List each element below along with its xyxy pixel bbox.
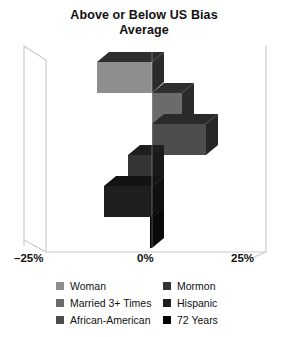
legend-label-african-american: African-American <box>70 314 151 326</box>
legend-item-woman: Woman <box>56 278 151 293</box>
legend-swatch-african-american <box>56 316 64 324</box>
legend-item-african-american: African-American <box>56 312 151 327</box>
legend-label-married-3-plus-times: Married 3+ Times <box>70 297 151 309</box>
legend-swatch-mormon <box>163 282 171 290</box>
legend-swatch-married-3-plus-times <box>56 299 64 307</box>
legend-item-married-3-plus-times: Married 3+ Times <box>56 295 151 310</box>
legend-item-hispanic: Hispanic <box>163 295 218 310</box>
x-tick-positive: 25% <box>231 252 254 264</box>
bar-chart-svg <box>0 34 288 259</box>
chart-title-line-1: Above or Below US Bias <box>0 8 288 23</box>
legend-swatch-72-years <box>163 316 171 324</box>
plot-area <box>0 34 288 259</box>
legend-column-right: Mormon Hispanic 72 Years <box>163 278 218 329</box>
x-tick-zero: 0% <box>137 252 154 264</box>
legend-column-left: Woman Married 3+ Times African-American <box>56 278 151 329</box>
bar-hispanic <box>104 176 164 217</box>
legend-swatch-hispanic <box>163 299 171 307</box>
legend-item-72-years: 72 Years <box>163 312 218 327</box>
left-wall-panel <box>24 46 46 252</box>
legend-label-woman: Woman <box>70 280 106 292</box>
legend-label-hispanic: Hispanic <box>177 297 217 309</box>
legend-label-72-years: 72 Years <box>177 314 218 326</box>
x-axis-tick-labels: –25% 0% 25% <box>0 252 288 270</box>
x-tick-negative: –25% <box>14 252 43 264</box>
chart-legend: Woman Married 3+ Times African-American … <box>0 278 288 328</box>
bar-hispanic-front <box>104 186 152 217</box>
legend-item-mormon: Mormon <box>163 278 218 293</box>
bar-woman-front <box>97 62 152 93</box>
legend-swatch-woman <box>56 282 64 290</box>
legend-label-mormon: Mormon <box>177 280 216 292</box>
chart-container: Above or Below US Bias Average <box>0 0 288 337</box>
bar-woman <box>97 52 164 93</box>
